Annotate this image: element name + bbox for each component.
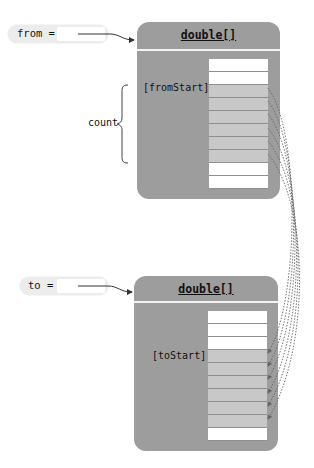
array-cell [208, 428, 267, 441]
array-cell-copied [209, 98, 268, 111]
from-start-label: [fromStart] [143, 82, 209, 93]
count-brace [117, 85, 128, 163]
to-array-type: double[] [134, 282, 278, 296]
from-reference-label: from = [17, 27, 55, 39]
array-cell [208, 311, 267, 324]
array-cell-copied [209, 137, 268, 150]
from-array-box: double[] [fromStart] [137, 22, 280, 199]
array-cell-copied [208, 389, 267, 402]
to-array-box: double[] [toStart] [134, 276, 278, 451]
array-cell-copied [209, 150, 268, 163]
from-reference-value [57, 27, 105, 41]
array-cell-copied [208, 402, 267, 415]
array-cell [209, 176, 268, 189]
from-array-divider [137, 49, 280, 51]
count-label: count [88, 117, 118, 128]
array-cell-copied [208, 376, 267, 389]
array-cell [209, 163, 268, 176]
array-cell [209, 59, 268, 72]
to-reference-label: to = [28, 279, 53, 291]
from-array-type: double[] [137, 28, 280, 42]
array-cell-copied [209, 124, 268, 137]
array-cell-copied [208, 363, 267, 376]
array-cell [208, 337, 267, 350]
array-cell-copied [209, 111, 268, 124]
array-cell [208, 324, 267, 337]
to-reference: to = [20, 277, 108, 295]
to-reference-value [57, 279, 105, 293]
array-cell [209, 72, 268, 85]
array-cell-copied [208, 350, 267, 363]
to-start-label: [toStart] [152, 350, 206, 361]
to-array-divider [134, 301, 278, 303]
to-array-cells [208, 311, 267, 441]
array-cell-copied [208, 415, 267, 428]
from-array-cells [209, 59, 268, 189]
from-reference: from = [8, 25, 108, 43]
array-cell-copied [209, 85, 268, 98]
